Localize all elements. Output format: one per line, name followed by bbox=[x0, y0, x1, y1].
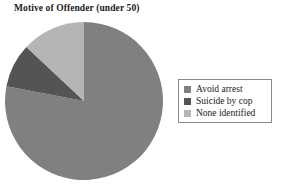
pie-slice-group bbox=[5, 22, 163, 180]
chart-title: Motive of Offender (under 50) bbox=[14, 3, 140, 13]
legend-swatch-icon bbox=[184, 98, 191, 105]
chart-legend: Avoid arrest Suicide by cop None identif… bbox=[178, 79, 272, 123]
legend-swatch-icon bbox=[184, 110, 191, 117]
pie-chart-figure: Motive of Offender (under 50) Avoid arre… bbox=[0, 0, 281, 186]
pie-svg bbox=[5, 22, 163, 180]
legend-item-label: None identified bbox=[196, 108, 255, 119]
legend-swatch-icon bbox=[184, 86, 191, 93]
legend-item-label: Suicide by cop bbox=[196, 96, 252, 107]
legend-item-avoid-arrest[interactable]: Avoid arrest bbox=[183, 83, 267, 95]
legend-item-suicide-by-cop[interactable]: Suicide by cop bbox=[183, 95, 267, 107]
pie-plot-area bbox=[5, 22, 163, 180]
legend-item-label: Avoid arrest bbox=[196, 84, 243, 95]
legend-item-none-identified[interactable]: None identified bbox=[183, 107, 267, 119]
